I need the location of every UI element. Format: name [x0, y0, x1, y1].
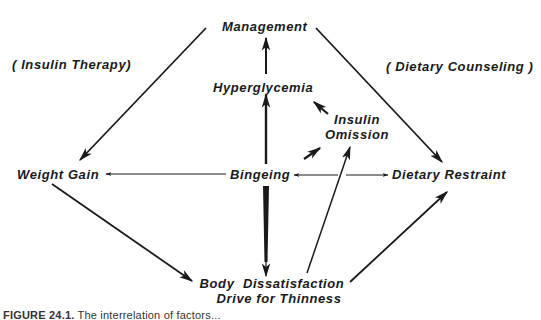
arrow-body-dissatisfaction-to-dietary-restraint [350, 192, 447, 282]
node-insulin-omission-line1: Insulin [324, 112, 390, 127]
arrow-weight-gain-to-body-dissatisfaction [52, 184, 192, 281]
node-hyperglycemia: Hyperglycemia [213, 80, 313, 95]
arrow-management-to-weight-gain [80, 28, 206, 160]
figure: Management Hyperglycemia Insulin Omissio… [0, 0, 541, 320]
node-drive-for-thinness: Drive for Thinness [196, 291, 348, 306]
node-insulin-omission-line2: Omission [324, 127, 390, 142]
annotation-dietary-counseling: ( Dietary Counseling ) [386, 59, 534, 74]
figure-caption: FIGURE 24.1. The interrelation of factor… [3, 309, 221, 320]
node-bingeing: Bingeing [230, 167, 290, 182]
arrow-bingeing-to-body-dissatisfaction [263, 186, 269, 262]
annotation-insulin-therapy: ( Insulin Therapy) [12, 57, 131, 72]
arrow-layer [0, 0, 541, 320]
node-weight-gain: Weight Gain [17, 167, 99, 182]
node-insulin-omission: Insulin Omission [324, 112, 390, 142]
node-dietary-restraint: Dietary Restraint [392, 167, 506, 182]
caption-label: FIGURE 24.1. [3, 309, 74, 320]
caption-text: The interrelation of factors... [78, 309, 221, 320]
node-management: Management [222, 19, 307, 34]
arrow-bingeing-to-insulin-omission [304, 148, 320, 159]
node-body-dissatisfaction-line1: Body Dissatisfaction [196, 276, 348, 291]
arrow-body-dissatisfaction-to-insulin-omission [307, 147, 350, 273]
node-body-dissatisfaction: Body Dissatisfaction Drive for Thinness [196, 276, 348, 306]
